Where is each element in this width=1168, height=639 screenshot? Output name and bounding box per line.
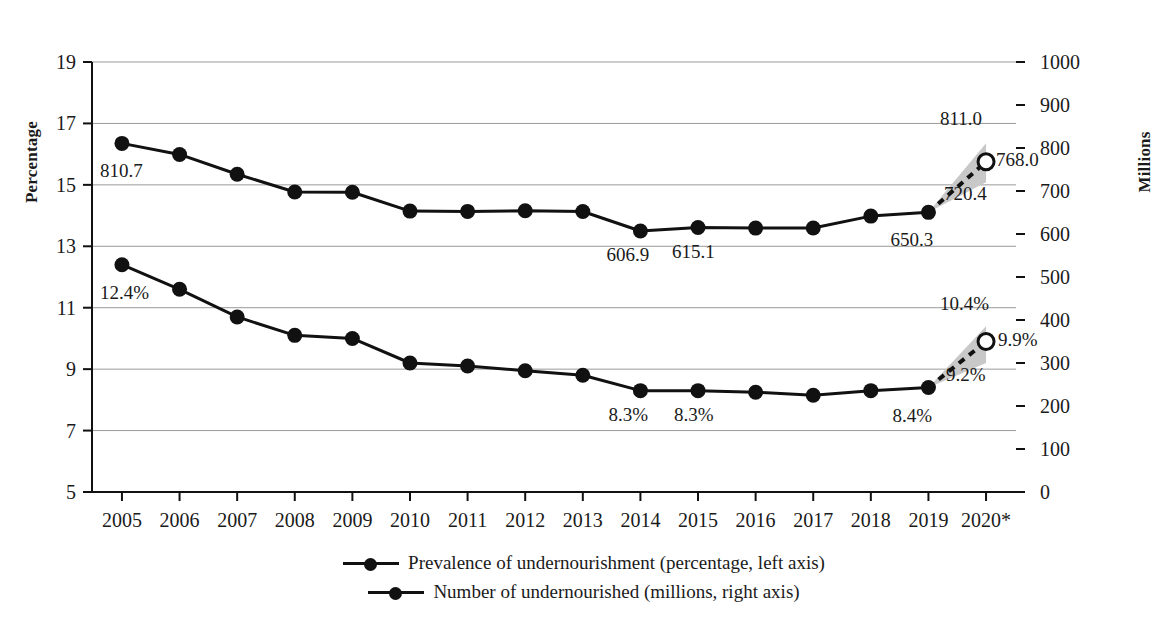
data-point-marker (921, 205, 936, 220)
data-point-marker (691, 383, 706, 398)
legend-line-marker-icon (343, 556, 399, 570)
data-label-millions-2005: 810.7 (100, 161, 250, 180)
data-point-marker (345, 185, 360, 200)
data-point-marker (230, 309, 245, 324)
legend-item-prevalence: Prevalence of undernourishment (percenta… (0, 548, 1168, 577)
data-point-marker (806, 220, 821, 235)
data-point-marker (460, 359, 475, 374)
data-point-marker (287, 328, 302, 343)
y-axis-right-tick-label: 200 (1040, 396, 1110, 416)
data-label-millions-2020-high: 811.0 (940, 109, 1090, 128)
legend-label-prevalence: Prevalence of undernourishment (percenta… (408, 552, 825, 574)
data-label-percentage-2020-high: 10.4% (940, 294, 1090, 313)
data-label-millions-2020-low: 720.4 (944, 184, 1094, 203)
data-point-marker (114, 136, 129, 151)
y-axis-right-tick-label: 600 (1040, 224, 1110, 244)
y-axis-right-tick-label: 1000 (1040, 52, 1110, 72)
data-point-marker (921, 380, 936, 395)
chart-figure: Percentage Millions 57911131517190100200… (0, 0, 1168, 639)
data-point-marker (863, 209, 878, 224)
y-axis-left-tick-label: 11 (16, 298, 76, 318)
data-label-percentage-2015: 8.3% (674, 405, 824, 424)
chart-legend: Prevalence of undernourishment (percenta… (0, 548, 1168, 606)
data-label-millions-2019: 650.3 (890, 230, 1040, 249)
projection-point-marker (978, 154, 994, 170)
legend-line-marker-icon (368, 585, 424, 599)
data-point-marker (863, 383, 878, 398)
legend-label-number: Number of undernourished (millions, righ… (433, 581, 799, 603)
x-axis-tick-label: 2020* (941, 510, 1031, 530)
data-label-percentage-2020-mid: 9.9% (998, 330, 1148, 349)
data-point-marker (575, 368, 590, 383)
data-point-marker (402, 356, 417, 371)
data-point-marker (748, 385, 763, 400)
data-point-marker (518, 363, 533, 378)
data-point-marker (114, 257, 129, 272)
y-axis-left-tick-label: 7 (16, 421, 76, 441)
y-axis-right-tick-label: 100 (1040, 439, 1110, 459)
data-point-marker (402, 204, 417, 219)
data-point-marker (345, 331, 360, 346)
y-axis-right-tick-label: 500 (1040, 267, 1110, 287)
data-point-marker (460, 204, 475, 219)
legend-item-number: Number of undernourished (millions, righ… (0, 577, 1168, 606)
y-axis-left-tick-label: 9 (16, 359, 76, 379)
y-axis-left-tick-label: 13 (16, 236, 76, 256)
data-point-marker (287, 184, 302, 199)
y-axis-right-tick-label: 0 (1040, 482, 1110, 502)
data-label-percentage-2019: 8.4% (892, 406, 1042, 425)
data-label-millions-2015: 615.1 (672, 242, 822, 261)
data-point-marker (575, 204, 590, 219)
y-axis-left-tick-label: 19 (16, 52, 76, 72)
y-axis-left-tick-label: 5 (16, 482, 76, 502)
chart-plot-area (0, 0, 1168, 639)
data-point-marker (806, 388, 821, 403)
y-axis-left-tick-label: 15 (16, 175, 76, 195)
data-point-marker (518, 203, 533, 218)
data-point-marker (172, 147, 187, 162)
data-label-percentage-2005: 12.4% (100, 283, 250, 302)
data-label-millions-2020-mid: 768.0 (996, 150, 1146, 169)
data-label-percentage-2020-low: 9.2% (946, 365, 1096, 384)
data-point-marker (691, 220, 706, 235)
data-point-marker (748, 221, 763, 236)
data-point-marker (633, 383, 648, 398)
projection-point-marker (978, 334, 994, 350)
y-axis-left-tick-label: 17 (16, 113, 76, 133)
data-point-marker (633, 224, 648, 239)
